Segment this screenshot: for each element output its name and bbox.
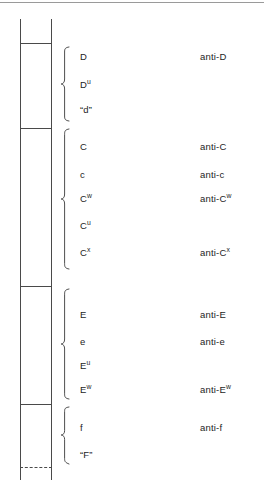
antibody-label: anti-E	[200, 310, 226, 320]
antigen-label: Cx	[80, 248, 91, 258]
antibody-symbol: anti-C	[200, 193, 227, 204]
page-top-rule	[0, 2, 264, 3]
antibody-superscript: w	[227, 192, 232, 199]
gene-bar-left-edge	[20, 19, 21, 480]
antibody-label: anti-D	[200, 52, 227, 62]
antibody-symbol: anti-C	[200, 247, 227, 258]
antibody-symbol: anti-C	[200, 141, 227, 152]
antigen-superscript: x	[87, 246, 91, 253]
antigen-symbol: D	[80, 79, 87, 90]
antibody-label: anti-e	[200, 337, 225, 347]
antigen-label: Eu	[80, 361, 91, 371]
gene-bar-divider-2	[20, 128, 52, 129]
brace-f-group	[60, 406, 71, 465]
gene-bar-divider-4	[20, 404, 52, 405]
gene-bar-divider-1	[20, 43, 52, 44]
antibody-symbol: anti-e	[200, 336, 225, 347]
antigen-label: “d”	[80, 105, 92, 115]
brace-c-group	[60, 128, 71, 270]
antibody-symbol: anti-E	[200, 384, 226, 395]
brace-e-group	[60, 288, 71, 400]
brace-d-group	[60, 46, 71, 122]
antigen-symbol: E	[80, 309, 87, 320]
antigen-label: Du	[80, 80, 91, 90]
gene-bar-right-edge	[51, 19, 52, 480]
antibody-superscript: w	[226, 383, 231, 390]
gene-bar-dashed-divider	[20, 467, 52, 468]
antigen-superscript: u	[87, 359, 91, 366]
antibody-label: anti-C	[200, 142, 227, 152]
antigen-symbol: e	[80, 336, 85, 347]
antigen-symbol: D	[80, 51, 87, 62]
antigen-superscript: w	[87, 383, 92, 390]
antigen-symbol: c	[80, 169, 85, 180]
antigen-label: C	[80, 142, 87, 152]
antigen-superscript: w	[87, 192, 92, 199]
antigen-superscript: u	[87, 78, 91, 85]
antibody-symbol: anti-D	[200, 51, 227, 62]
antigen-symbol: C	[80, 247, 87, 258]
antigen-symbol: C	[80, 193, 87, 204]
antibody-label: anti-Cx	[200, 248, 230, 258]
antigen-symbol: C	[80, 141, 87, 152]
antigen-label: c	[80, 170, 85, 180]
antigen-label: Cw	[80, 194, 92, 204]
antigen-label: Ew	[80, 385, 92, 395]
gene-bar-divider-3	[20, 286, 52, 287]
antibody-label: anti-Ew	[200, 385, 231, 395]
antibody-label: anti-f	[200, 423, 222, 433]
antigen-symbol: C	[80, 220, 87, 231]
antigen-label: Cu	[80, 221, 91, 231]
antigen-symbol: “d”	[80, 104, 92, 115]
antigen-label: D	[80, 52, 87, 62]
antigen-label: f	[80, 423, 83, 433]
antibody-symbol: anti-c	[200, 169, 224, 180]
antigen-symbol: “F”	[80, 449, 93, 460]
antibody-label: anti-c	[200, 170, 224, 180]
antigen-label: E	[80, 310, 87, 320]
antigen-label: e	[80, 337, 85, 347]
antibody-label: anti-Cw	[200, 194, 232, 204]
antibody-symbol: anti-E	[200, 309, 226, 320]
antibody-symbol: anti-f	[200, 422, 222, 433]
antigen-superscript: u	[87, 219, 91, 226]
antigen-label: “F”	[80, 450, 93, 460]
antigen-symbol: f	[80, 422, 83, 433]
rh-nomenclature-diagram: D Du “d” anti-D C c Cw Cu Cx anti-C anti…	[0, 0, 264, 494]
antibody-superscript: x	[227, 246, 231, 253]
